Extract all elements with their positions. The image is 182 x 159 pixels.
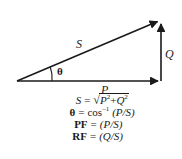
formula-phase-angle: θ = cos–1 (P/S) [47,106,135,118]
formula-lhs-PF: PF [60,118,88,130]
angle-arc [50,67,52,81]
label-apparent-power-S: S [76,38,82,50]
formula-reactive-factor: RF = (Q/S) [59,130,123,142]
inverse-exponent: –1 [102,105,109,113]
radicand-term1-base: P [100,94,107,106]
formula-apparent-power: S = √ P2+Q2 [53,93,129,106]
apparent-power-vector-S [17,22,158,82]
triangle-vector-diagram [0,0,182,100]
label-phase-angle-theta: θ [57,66,63,77]
reactive-factor-argument: (Q/S) [99,130,123,142]
formula-lhs-S: S [53,94,81,106]
power-factor-argument: (P/S) [100,118,123,130]
label-reactive-power-Q: Q [165,48,174,60]
power-triangle-figure: S Q P θ S = √ P2+Q2 θ = cos–1 (P/S) PF =… [0,0,182,159]
equals-sign: = [87,130,99,142]
formula-lhs-RF: RF [59,130,87,142]
equals-sign: = [75,106,87,118]
arccos-argument: (P/S) [109,106,135,118]
arccos-function: cos–1 [87,106,109,118]
formula-power-factor: PF = (P/S) [60,118,123,130]
radicand-term2-exponent: 2 [124,93,128,101]
radicand: P2+Q2 [99,93,129,106]
cos-label: cos [87,106,102,118]
formula-lhs-theta: θ [47,106,75,118]
radical-expression: √ P2+Q2 [93,93,129,106]
equals-sign: = [81,94,93,106]
equals-sign: = [88,118,100,130]
formula-list: S = √ P2+Q2 θ = cos–1 (P/S) PF = (P/S) R… [0,93,182,142]
